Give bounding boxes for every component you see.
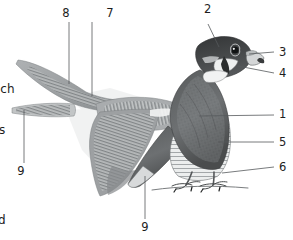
perched-throat bbox=[203, 71, 228, 83]
edge-text-d: d bbox=[0, 214, 6, 226]
perched-foot-left bbox=[172, 182, 200, 189]
edge-text-s: s bbox=[0, 124, 5, 136]
falcon-identification-plate: 1 2 3 4 5 6 7 8 9 9 ich s d bbox=[0, 0, 293, 240]
callout-label-3: 3 bbox=[279, 47, 287, 59]
callout-label-7: 7 bbox=[106, 8, 114, 20]
callout-label-9-perched: 9 bbox=[141, 222, 149, 234]
callout-label-5: 5 bbox=[279, 137, 287, 149]
plate-artwork bbox=[0, 0, 293, 240]
perched-eye-highlight bbox=[233, 48, 235, 50]
callout-label-8: 8 bbox=[62, 8, 70, 20]
callout-label-9-flight: 9 bbox=[17, 166, 25, 178]
callout-label-1: 1 bbox=[279, 109, 287, 121]
ground-line bbox=[152, 186, 248, 190]
perched-eye bbox=[231, 46, 238, 53]
perched-talons bbox=[174, 187, 220, 192]
leader-line-6 bbox=[222, 167, 274, 173]
callout-label-2: 2 bbox=[204, 4, 212, 16]
callout-label-6: 6 bbox=[279, 162, 287, 174]
edge-text-ich: ich bbox=[0, 83, 15, 95]
callout-label-4: 4 bbox=[279, 68, 287, 80]
